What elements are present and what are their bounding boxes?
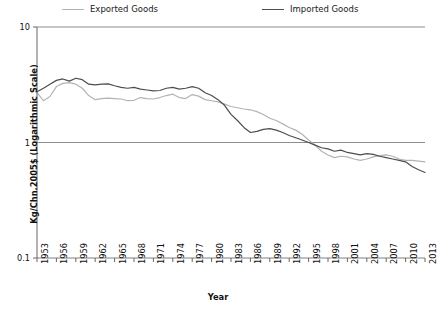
y-axis-title: Kg/Chn.2005$ (Logarithmic Scale) bbox=[29, 49, 39, 239]
x-tick-label: 1992 bbox=[292, 243, 302, 264]
x-tick-label: 2004 bbox=[370, 243, 380, 264]
x-axis-title: Year bbox=[0, 292, 436, 302]
x-tick-label: 1989 bbox=[273, 243, 283, 264]
y-tick-label: 0.1 bbox=[0, 253, 30, 263]
gridlines bbox=[33, 27, 425, 258]
x-tick-label: 2010 bbox=[409, 243, 419, 264]
x-tick-label: 1962 bbox=[98, 243, 108, 264]
series-lines bbox=[37, 78, 425, 172]
series-line-exported-goods bbox=[37, 83, 425, 162]
y-tick-label: 10 bbox=[0, 22, 30, 32]
x-tick-label: 1953 bbox=[40, 243, 50, 264]
x-tick-label: 1995 bbox=[312, 243, 322, 264]
x-tick-label: 1980 bbox=[215, 243, 225, 264]
x-tick-label: 1968 bbox=[137, 243, 147, 264]
x-tick-label: 1998 bbox=[331, 243, 341, 264]
x-tick-label: 1956 bbox=[59, 243, 69, 264]
x-tick-label: 2007 bbox=[389, 243, 399, 264]
x-tick-label: 1959 bbox=[79, 243, 89, 264]
x-tick-label: 1986 bbox=[253, 243, 263, 264]
x-tick-label: 1965 bbox=[118, 243, 128, 264]
x-tick-label: 1971 bbox=[156, 243, 166, 264]
y-tick-label: 1 bbox=[0, 138, 30, 148]
x-tick-label: 1983 bbox=[234, 243, 244, 264]
x-tick-marks bbox=[37, 258, 425, 262]
x-tick-label: 2013 bbox=[428, 243, 438, 264]
x-tick-label: 1974 bbox=[176, 243, 186, 264]
x-tick-label: 1977 bbox=[195, 243, 205, 264]
x-tick-label: 2001 bbox=[350, 243, 360, 264]
